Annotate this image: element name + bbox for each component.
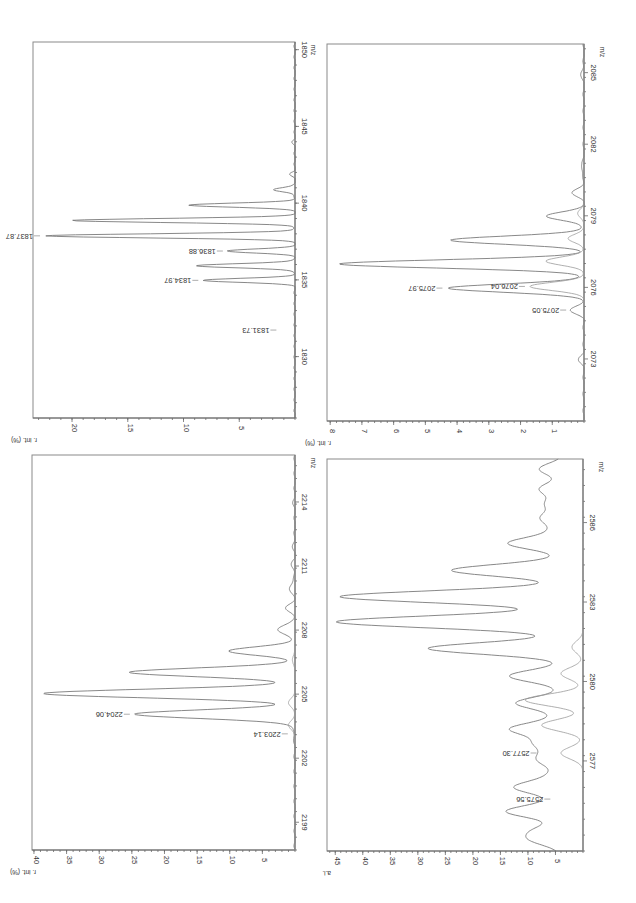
spectrum-plot: 2577258025832586m/z51015202530354045a.i.… — [0, 0, 636, 903]
y-tick-label: 20 — [471, 857, 480, 865]
y-tick-label: 45 — [333, 857, 342, 865]
y-tick-label: 25 — [443, 857, 452, 865]
x-tick-label: 2577 — [588, 753, 597, 770]
y-axis-label: a.i. — [322, 870, 331, 877]
spectrum-panel-2577-2586: 2577258025832586m/z51015202530354045a.i.… — [0, 0, 636, 903]
peak-label: 2575.56 — [516, 795, 543, 804]
plot-area: 2577258025832586m/z51015202530354045a.i.… — [322, 459, 605, 877]
y-tick-label: 40 — [361, 857, 370, 865]
x-tick-label: 2586 — [588, 514, 597, 531]
y-axis: 51015202530354045a.i. — [322, 851, 583, 877]
y-tick-label: 30 — [416, 857, 425, 865]
x-tick-label: 2583 — [588, 594, 597, 611]
peak-label: 2577.30 — [502, 749, 529, 758]
plot-frame — [327, 459, 583, 851]
y-tick-label: 5 — [553, 859, 562, 863]
y-tick-label: 35 — [388, 857, 397, 865]
x-axis-label: m/z — [598, 462, 605, 472]
x-axis: 2577258025832586m/z — [583, 459, 605, 851]
x-tick-label: 2580 — [588, 673, 597, 690]
overlay-trace — [525, 459, 583, 851]
y-tick-label: 10 — [526, 857, 535, 865]
spectrum-trace — [336, 459, 558, 851]
y-tick-label: 15 — [498, 857, 507, 865]
